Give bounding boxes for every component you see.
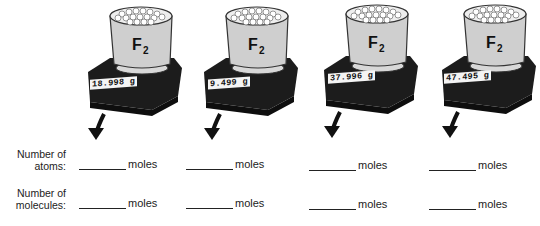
answer-blank[interactable]	[79, 159, 126, 170]
beaker-on-scale-icon: F 2	[198, 2, 308, 142]
svg-text:F: F	[248, 36, 258, 53]
scale-1: F 2 18.998 g	[82, 2, 192, 142]
scale-4: F 2 47.495 g	[436, 0, 540, 140]
answer-blank[interactable]	[429, 160, 476, 171]
atoms-answer-3[interactable]: moles	[309, 159, 387, 171]
answer-blank[interactable]	[186, 198, 233, 209]
molecules-answer-2[interactable]: moles	[186, 197, 264, 209]
atoms-answer-2[interactable]: moles	[186, 158, 264, 170]
unit-label: moles	[358, 159, 387, 171]
scale-3: F 2 37.996 g	[318, 0, 428, 140]
answer-blank[interactable]	[79, 198, 126, 209]
answer-blank[interactable]	[309, 160, 356, 171]
svg-text:2: 2	[379, 43, 385, 54]
unit-label: moles	[235, 197, 264, 209]
unit-label: moles	[478, 198, 507, 210]
molecules-answer-4[interactable]: moles	[429, 198, 507, 210]
molecules-answer-3[interactable]: moles	[309, 198, 387, 210]
scale-2: F 2 9.499 g	[198, 2, 308, 142]
unit-label: moles	[128, 158, 157, 170]
unit-label: moles	[128, 197, 157, 209]
label-line: atoms:	[10, 160, 66, 172]
label-line: Number of	[6, 187, 66, 199]
unit-label: moles	[235, 158, 264, 170]
unit-label: moles	[358, 198, 387, 210]
molecules-answer-1[interactable]: moles	[79, 197, 157, 209]
row-label-atoms: Number of atoms:	[10, 148, 66, 172]
svg-text:2: 2	[259, 45, 265, 56]
unit-label: moles	[478, 159, 507, 171]
beaker-on-scale-icon: F 2	[82, 2, 192, 142]
svg-text:F: F	[132, 36, 142, 53]
atoms-answer-1[interactable]: moles	[79, 158, 157, 170]
svg-text:2: 2	[497, 43, 503, 54]
svg-text:2: 2	[143, 45, 149, 56]
svg-text:F: F	[486, 34, 496, 51]
label-line: molecules:	[6, 199, 66, 211]
answer-blank[interactable]	[309, 199, 356, 210]
label-line: Number of	[10, 148, 66, 160]
atoms-answer-4[interactable]: moles	[429, 159, 507, 171]
answer-blank[interactable]	[186, 159, 233, 170]
answer-blank[interactable]	[429, 199, 476, 210]
svg-text:F: F	[368, 34, 378, 51]
row-label-molecules: Number of molecules:	[6, 187, 66, 211]
